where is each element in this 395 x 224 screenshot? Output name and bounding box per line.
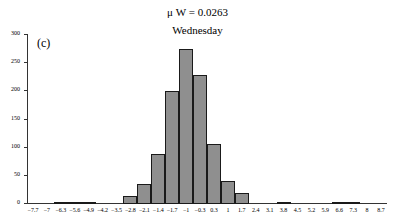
y-tick-mark <box>24 119 27 120</box>
y-tick-label: 0 <box>4 199 20 205</box>
chart-title: μ W = 0.0263 <box>0 6 395 18</box>
histogram-bar <box>179 49 193 204</box>
y-tick-mark <box>24 34 27 35</box>
histogram-bar <box>277 202 291 205</box>
y-tick-label: 150 <box>4 115 20 121</box>
y-tick-label: 250 <box>4 58 20 64</box>
histogram-bar <box>193 75 207 204</box>
y-tick-label: 300 <box>4 30 20 36</box>
y-tick-label: 50 <box>4 171 20 177</box>
histogram-bar <box>207 144 221 204</box>
histogram-bar <box>165 91 179 204</box>
y-tick-mark <box>24 203 27 204</box>
y-tick-mark <box>24 147 27 148</box>
histogram-chart: μ W = 0.0263 Wednesday (c) 0501001502002… <box>0 0 395 224</box>
histogram-bar <box>137 184 151 204</box>
histogram-bar <box>332 202 346 205</box>
histogram-bar <box>221 181 235 204</box>
chart-subtitle: Wednesday <box>0 24 395 36</box>
panel-label: (c) <box>37 36 50 51</box>
y-tick-mark <box>24 90 27 91</box>
y-axis <box>27 34 28 204</box>
x-tick-label: 8.7 <box>371 207 391 213</box>
histogram-bar <box>346 202 360 205</box>
histogram-bar <box>68 202 82 205</box>
y-tick-mark <box>24 62 27 63</box>
y-tick-label: 100 <box>4 143 20 149</box>
y-tick-mark <box>24 175 27 176</box>
histogram-bar <box>123 196 137 204</box>
y-tick-label: 200 <box>4 86 20 92</box>
histogram-bar <box>235 193 249 204</box>
histogram-bar <box>151 154 165 204</box>
histogram-bar <box>54 202 68 205</box>
histogram-bar <box>82 202 96 205</box>
